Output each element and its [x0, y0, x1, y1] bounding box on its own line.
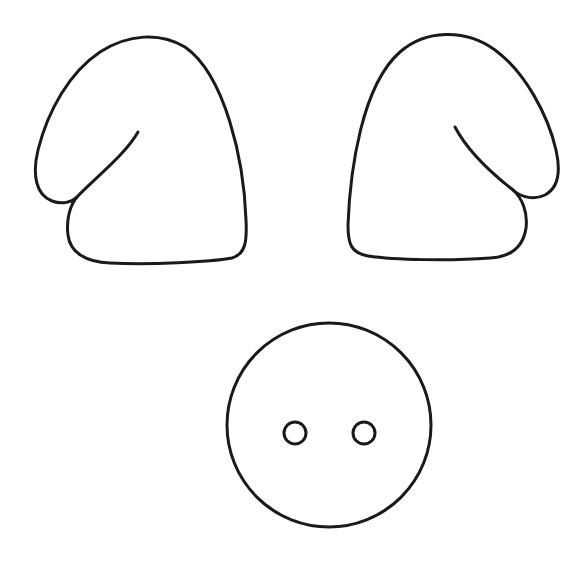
left-ear-fold [77, 132, 138, 197]
left-ear-outline [35, 37, 246, 264]
right-ear-fold [455, 127, 513, 190]
snout [227, 323, 431, 527]
left-nostril [284, 422, 306, 444]
left-ear [35, 37, 246, 264]
pig-face-template [0, 0, 588, 565]
right-nostril [353, 422, 375, 444]
right-ear [348, 34, 558, 259]
right-ear-outline [348, 34, 558, 259]
snout-outline [227, 323, 431, 527]
